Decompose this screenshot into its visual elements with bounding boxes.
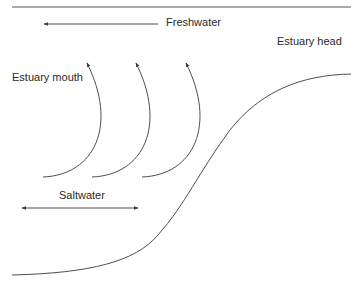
estuary-head-label: Estuary head	[277, 36, 342, 47]
circulation-arrow-3	[142, 63, 200, 177]
saltwater-label: Saltwater	[59, 190, 105, 201]
estuary-mouth-label: Estuary mouth	[12, 72, 83, 83]
estuary-diagram: Freshwater Estuary head Estuary mouth Sa…	[0, 0, 362, 287]
freshwater-label: Freshwater	[166, 17, 221, 28]
estuary-bed-curve	[12, 74, 351, 275]
